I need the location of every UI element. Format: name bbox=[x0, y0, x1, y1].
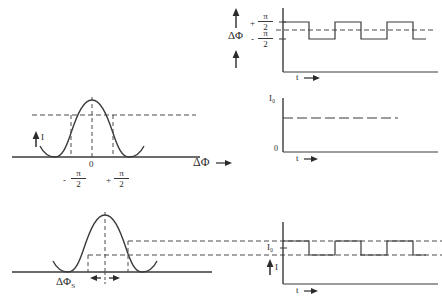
phase-lower-fraction: π 2 bbox=[258, 29, 273, 49]
phase-axis-label: ΔΦ bbox=[228, 30, 243, 41]
phase-upper-sign: + bbox=[250, 18, 255, 28]
panel-constant-intensity bbox=[283, 98, 438, 152]
modulated-intensity-arrow bbox=[267, 259, 274, 275]
phase-time-arrow bbox=[304, 75, 320, 81]
transfer-left-numerator: π bbox=[76, 169, 81, 177]
figure-vector-layer bbox=[0, 0, 442, 302]
panel-modulated-intensity bbox=[267, 222, 438, 294]
transfer-left-fraction: π 2 bbox=[71, 169, 86, 189]
transfer-phase-axis-label: ΔΦ bbox=[193, 156, 210, 168]
modulated-intensity-label: I bbox=[275, 263, 278, 272]
phase-upper-numerator: π bbox=[263, 12, 268, 20]
signal-excursion-arrows bbox=[90, 272, 120, 284]
signal-curve-left-lobe bbox=[53, 261, 68, 272]
modulated-time-arrow bbox=[304, 288, 318, 294]
transfer-right-numerator: π bbox=[119, 169, 124, 177]
phase-lower-numerator: π bbox=[263, 29, 268, 37]
transfer-right-fraction: π 2 bbox=[114, 169, 129, 189]
phase-arrow-upper bbox=[233, 8, 240, 28]
transfer-curve-right-lobe bbox=[129, 146, 144, 157]
phase-time-label: t bbox=[296, 73, 299, 82]
transfer-intensity-label: I bbox=[41, 133, 44, 142]
signal-curve-right-lobe bbox=[142, 261, 157, 272]
phase-lower-denominator: 2 bbox=[263, 40, 268, 49]
panel-transfer-signal bbox=[12, 212, 442, 284]
constant-i0-label: I₀ bbox=[269, 94, 275, 103]
transfer-left-sign: - bbox=[63, 175, 66, 185]
transfer-right-sign: + bbox=[106, 175, 111, 185]
constant-time-label: t bbox=[296, 154, 299, 163]
signal-excursion-label: ΔΦS bbox=[56, 276, 75, 290]
figure-canvas: + π 2 ΔΦ - π 2 t I₀ 0 t I 0 - π 2 + π 2 … bbox=[0, 0, 442, 302]
modulated-time-label: t bbox=[296, 286, 299, 295]
transfer-phase-arrow bbox=[216, 160, 232, 166]
constant-origin-label: 0 bbox=[274, 145, 278, 153]
transfer-intensity-arrow bbox=[33, 131, 40, 147]
constant-time-arrow bbox=[304, 156, 318, 162]
signal-excursion-label-subscript: S bbox=[71, 282, 75, 290]
transfer-curve-left-lobe bbox=[40, 146, 55, 157]
modulated-i0-label: I₀ bbox=[267, 243, 273, 252]
transfer-right-denominator: 2 bbox=[119, 180, 124, 189]
signal-excursion-label-main: ΔΦ bbox=[56, 275, 71, 287]
phase-lower-sign: - bbox=[251, 34, 254, 44]
modulated-square-wave bbox=[283, 241, 426, 255]
phase-arrow-lower bbox=[233, 50, 240, 68]
transfer-left-denominator: 2 bbox=[76, 180, 81, 189]
transfer-center-label: 0 bbox=[89, 160, 94, 169]
